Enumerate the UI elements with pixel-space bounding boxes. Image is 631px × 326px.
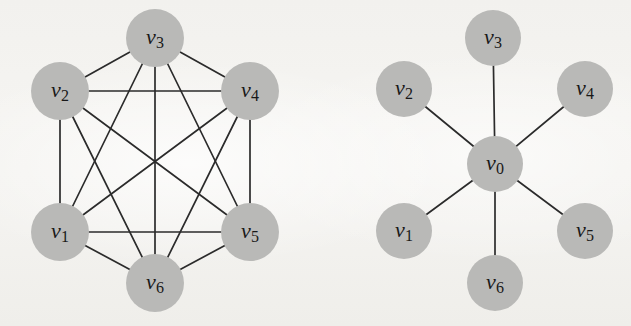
graph-figure: v1v2v3v4v5v6v0v1v2v3v4v5v6 bbox=[0, 0, 631, 326]
node-group: v0v1v2v3v4v5v6 bbox=[376, 10, 613, 311]
node-v2[interactable]: v2 bbox=[376, 61, 432, 117]
edge-group bbox=[60, 38, 250, 283]
node-v3[interactable]: v3 bbox=[465, 10, 521, 66]
node-v4[interactable]: v4 bbox=[557, 61, 613, 117]
node-v6[interactable]: v6 bbox=[126, 254, 184, 312]
graph-panel-star-graph: v0v1v2v3v4v5v6 bbox=[376, 10, 613, 311]
node-v2[interactable]: v2 bbox=[31, 62, 89, 120]
node-v0[interactable]: v0 bbox=[467, 136, 523, 192]
node-v4[interactable]: v4 bbox=[221, 62, 279, 120]
node-v6[interactable]: v6 bbox=[467, 255, 523, 311]
node-v5[interactable]: v5 bbox=[557, 203, 613, 259]
graph-canvas: v1v2v3v4v5v6v0v1v2v3v4v5v6 bbox=[0, 0, 631, 326]
graph-panel-complete-graph: v1v2v3v4v5v6 bbox=[31, 9, 279, 312]
node-v1[interactable]: v1 bbox=[31, 203, 89, 261]
node-v1[interactable]: v1 bbox=[376, 203, 432, 259]
node-v5[interactable]: v5 bbox=[221, 203, 279, 261]
node-v3[interactable]: v3 bbox=[126, 9, 184, 67]
